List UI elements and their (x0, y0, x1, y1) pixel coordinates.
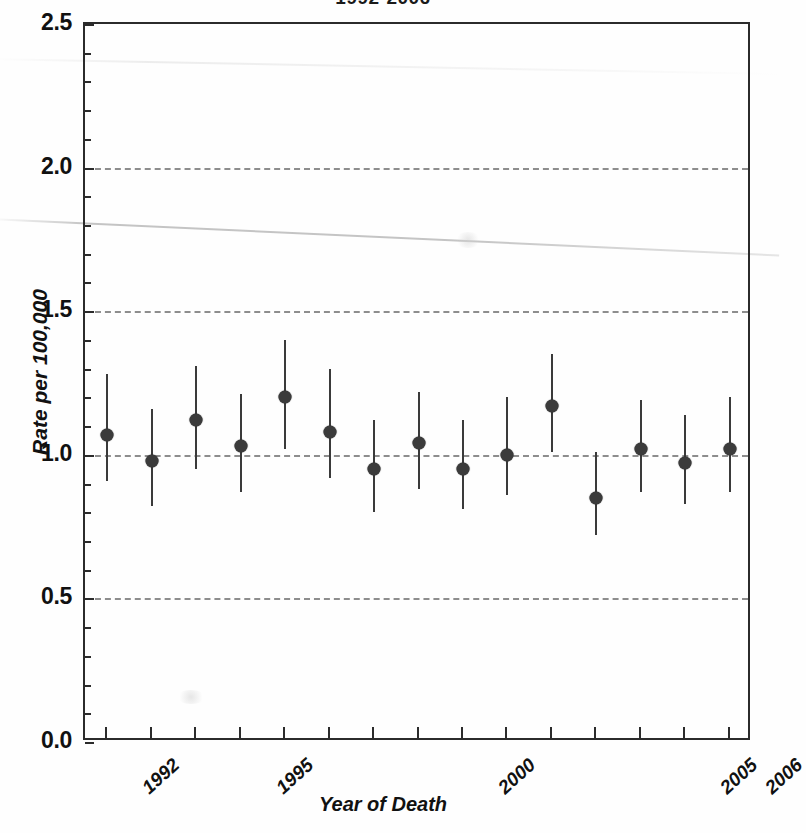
gridline-y (85, 168, 748, 170)
y-tick-minor (85, 81, 91, 83)
x-tick (283, 727, 285, 740)
x-tick-label: 1992 (138, 754, 184, 799)
x-tick (728, 727, 730, 740)
y-tick-minor (85, 53, 91, 55)
data-point (501, 448, 514, 461)
data-point (412, 437, 425, 450)
y-tick-minor (85, 627, 91, 629)
data-point (190, 414, 203, 427)
y-tick-label: 1.0 (12, 439, 72, 466)
gridline-y (85, 311, 748, 313)
y-tick-minor (85, 369, 91, 371)
x-tick-label: 2000 (494, 754, 540, 799)
x-tick-label: 2006 (761, 754, 806, 799)
y-tick-minor (85, 110, 91, 112)
y-tick-minor (85, 685, 91, 687)
y-tick-minor (85, 426, 91, 428)
x-tick (639, 727, 641, 740)
y-tick-major (85, 598, 94, 600)
y-tick-minor (85, 340, 91, 342)
x-tick (550, 727, 552, 740)
x-tick (505, 727, 507, 740)
data-point (723, 443, 736, 456)
data-point (679, 457, 692, 470)
y-tick-minor (85, 512, 91, 514)
x-tick-label: 1995 (271, 754, 317, 799)
data-point (279, 391, 292, 404)
x-tick (150, 727, 152, 740)
data-point (590, 491, 603, 504)
error-bar (329, 369, 331, 478)
x-tick (594, 727, 596, 740)
y-tick-label: 2.5 (12, 9, 72, 36)
data-point (234, 440, 247, 453)
error-bar (506, 397, 508, 495)
x-tick-label: 2005 (716, 754, 762, 799)
plot-area (83, 22, 750, 740)
data-point (368, 463, 381, 476)
y-tick-minor (85, 139, 91, 141)
x-tick (194, 727, 196, 740)
y-tick-minor (85, 196, 91, 198)
y-tick-label: 0.5 (12, 583, 72, 610)
y-tick-minor (85, 225, 91, 227)
x-tick (417, 727, 419, 740)
data-point (101, 428, 114, 441)
y-tick-minor (85, 484, 91, 486)
x-tick (239, 727, 241, 740)
y-tick-label: 0.0 (12, 727, 72, 754)
y-tick-minor (85, 282, 91, 284)
y-tick-label: 2.0 (12, 152, 72, 179)
data-point (634, 443, 647, 456)
y-tick-minor (85, 570, 91, 572)
y-tick-minor (85, 541, 91, 543)
y-tick-major (85, 168, 94, 170)
y-tick-major (85, 311, 94, 313)
data-point (456, 463, 469, 476)
y-tick-minor (85, 656, 91, 658)
data-point (545, 399, 558, 412)
y-tick-major (85, 24, 94, 26)
y-tick-minor (85, 397, 91, 399)
x-axis-title: Year of Death (0, 793, 766, 816)
y-tick-major (85, 742, 94, 744)
data-point (145, 454, 158, 467)
gridline-y (85, 598, 748, 600)
y-tick-minor (85, 713, 91, 715)
x-tick (683, 727, 685, 740)
y-tick-label: 1.5 (12, 296, 72, 323)
y-tick-major (85, 455, 94, 457)
y-tick-minor (85, 254, 91, 256)
chart-title: 1992-2006 (0, 0, 766, 9)
x-tick (105, 727, 107, 740)
x-tick (461, 727, 463, 740)
x-tick (328, 727, 330, 740)
gridline-y (85, 455, 748, 457)
x-tick (372, 727, 374, 740)
data-point (323, 425, 336, 438)
